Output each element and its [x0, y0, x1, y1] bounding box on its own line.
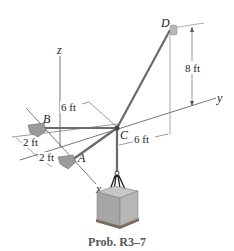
dimension-6ft-x-line [82, 102, 118, 128]
cable-cd [117, 30, 170, 128]
arrow-up-icon [190, 27, 194, 32]
figure-caption: Prob. R3–7 [88, 235, 146, 249]
statics-diagram: z y x 8 ft 6 ft 6 ft 2 ft 2 ft B A [0, 0, 234, 251]
dimension-2ft-b-label: 2 ft [23, 136, 38, 148]
support-d-icon [170, 25, 177, 35]
point-d-label: D [160, 16, 170, 30]
point-c-label: C [120, 128, 129, 142]
point-a-label: A [77, 151, 86, 165]
dimension-8ft-label: 8 ft [185, 62, 200, 74]
point-b-label: B [43, 112, 51, 126]
y-axis-label: y [216, 91, 223, 105]
ring-c-icon [115, 126, 120, 131]
support-a-icon [58, 155, 76, 169]
z-axis-label: z [56, 43, 62, 57]
dimension-6ft-x-label: 6 ft [61, 101, 76, 113]
dimension-2ft-a-label: 2 ft [39, 151, 54, 163]
dimension-6ft-y-label: 6 ft [134, 133, 149, 145]
crate-icon [96, 186, 139, 229]
